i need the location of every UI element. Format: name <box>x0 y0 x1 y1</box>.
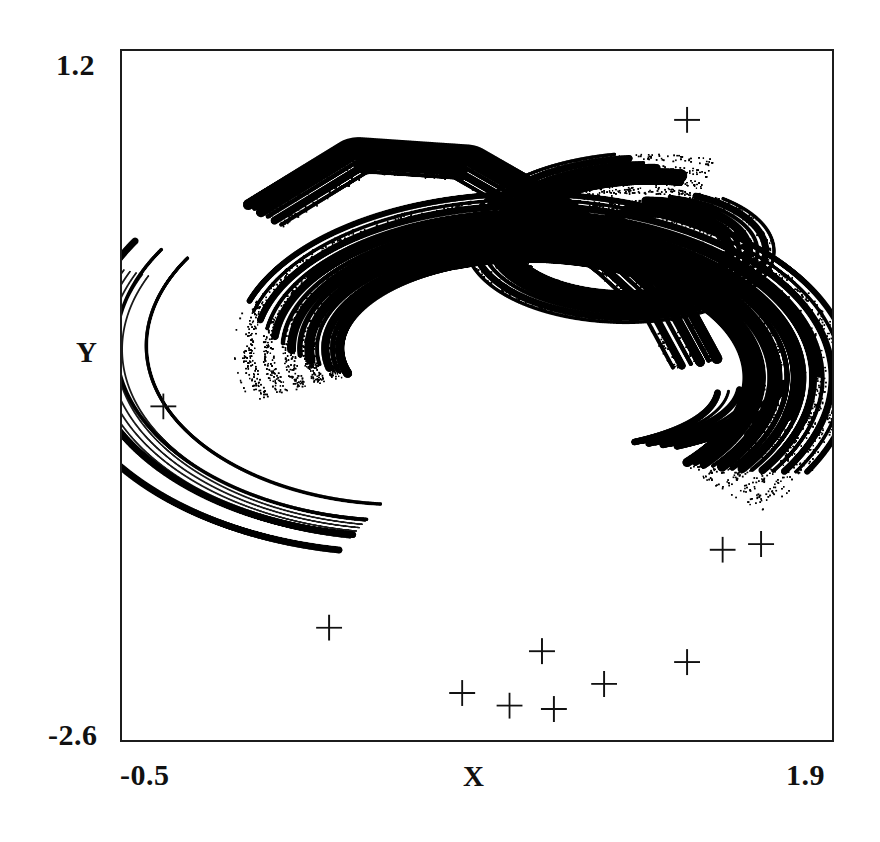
x-axis-max-label: 1.9 <box>786 758 825 792</box>
plot-frame <box>120 49 834 742</box>
y-axis-min-label: -2.6 <box>48 718 98 752</box>
y-axis-title: Y <box>76 336 97 369</box>
y-axis-max-label: 1.2 <box>56 48 95 82</box>
x-axis-title: X <box>463 760 484 793</box>
attractor-plot-canvas <box>122 51 832 740</box>
figure-root: 1.2 -2.6 -0.5 1.9 X Y <box>0 0 880 842</box>
x-axis-min-label: -0.5 <box>120 758 170 792</box>
